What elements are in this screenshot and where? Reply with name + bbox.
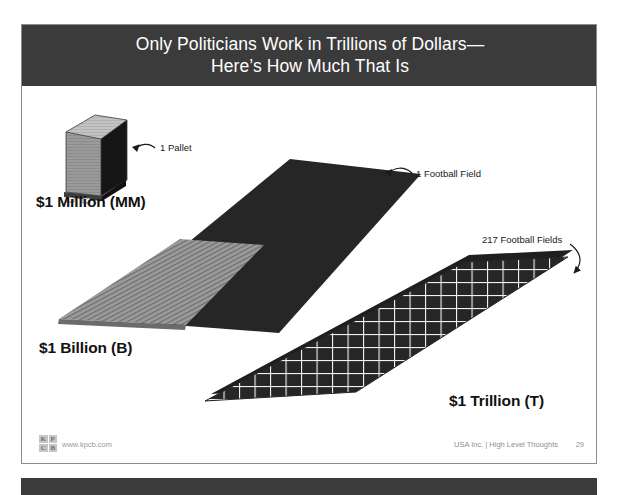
callout-217-football-fields: 217 Football Fields — [482, 234, 562, 245]
slide-footer: K P C B www.kpcb.com USA Inc. | High Lev… — [22, 433, 597, 457]
footer-website-link[interactable]: www.kpcb.com — [62, 440, 112, 449]
callout-one-pallet: 1 Pallet — [160, 142, 192, 153]
logo-letter-c: C — [39, 444, 48, 452]
logo-letter-k: K — [39, 435, 48, 443]
next-slide-title-bar — [21, 478, 597, 495]
217-football-fields-callout-arrow — [570, 244, 580, 273]
million-pallet-cube — [64, 115, 127, 203]
pallet-callout-arrow — [135, 144, 155, 149]
callout-one-football-field: 1 Football Field — [416, 168, 481, 179]
logo-letter-p: P — [49, 435, 58, 443]
page-title: Only Politicians Work in Trillions of Do… — [136, 33, 485, 77]
label-one-billion: $1 Billion (B) — [39, 339, 132, 357]
footer-deck-title: USA Inc. | High Level Thoughts — [454, 440, 558, 449]
slide: Only Politicians Work in Trillions of Do… — [21, 24, 597, 464]
page-number: 29 — [576, 440, 584, 449]
slide-title-bar: Only Politicians Work in Trillions of Do… — [21, 24, 597, 86]
label-one-million: $1 Million (MM) — [36, 193, 146, 211]
cube-front-face — [66, 132, 101, 196]
kpcb-logo-icon: K P C B — [39, 435, 57, 452]
logo-letter-b: B — [49, 444, 58, 452]
label-one-trillion: $1 Trillion (T) — [449, 392, 544, 410]
diagram-canvas: $1 Million (MM) $1 Billion (B) $1 Trilli… — [22, 87, 597, 464]
